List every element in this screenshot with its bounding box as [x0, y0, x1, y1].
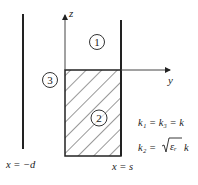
equation-k2-radicand: εᵣ	[170, 141, 177, 152]
right-boundary-label: x = s	[111, 161, 133, 172]
equation-k1-k3: k₁ = k₃ = k	[138, 117, 184, 128]
equation-k2-lhs: k₂ =	[138, 142, 156, 153]
y-axis-label: y	[167, 74, 173, 86]
left-boundary-label: x = −d	[5, 159, 36, 170]
region-1-label: 1	[94, 36, 100, 48]
z-axis-label: z	[68, 7, 74, 19]
waveguide-diagram: z y 1 3 2 x = −d x = s k₁ = k₃ = k k₂ = …	[0, 0, 198, 185]
equation-k2-tail: k	[184, 142, 189, 153]
region-3-label: 3	[47, 74, 53, 86]
region-2-label: 2	[96, 112, 102, 124]
